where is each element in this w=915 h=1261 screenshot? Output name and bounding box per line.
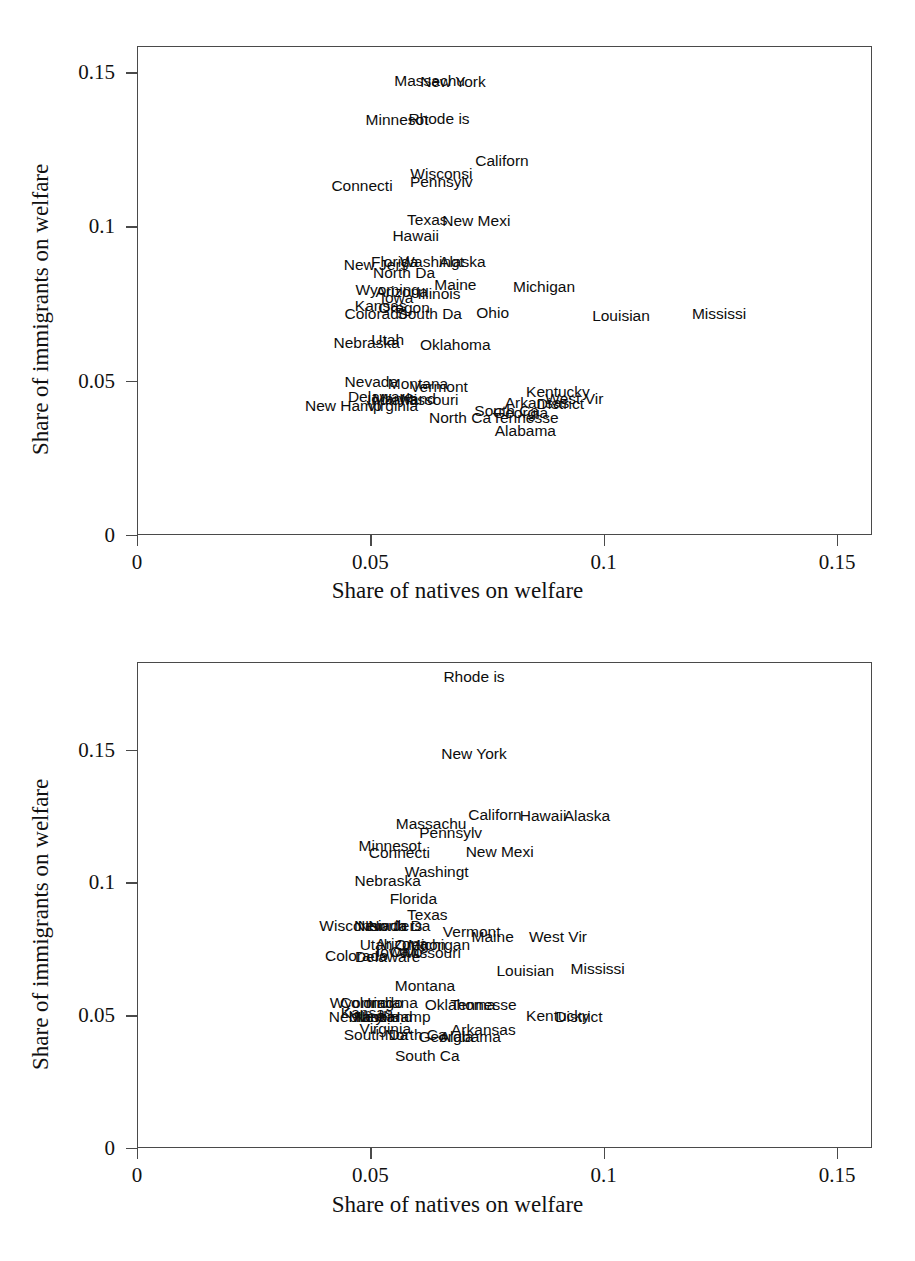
y-tick-label: 0.1 [89, 870, 115, 895]
x-tick-label: 0.15 [819, 1163, 856, 1188]
x-tick-label: 0 [132, 550, 143, 575]
data-point-label: South Ca [395, 1048, 460, 1064]
x-tick [137, 1148, 138, 1159]
y-tick-label: 0 [105, 523, 116, 548]
x-tick [837, 1148, 838, 1159]
x-tick [604, 1148, 605, 1159]
data-point-label: Montana [395, 978, 455, 994]
x-axis-title-bottom: Share of natives on welfare [0, 1192, 915, 1218]
y-tick [126, 381, 137, 382]
data-point-label: North Da [373, 265, 435, 281]
data-point-label: Oklahoma [420, 337, 491, 353]
y-tick-label: 0.15 [78, 737, 115, 762]
data-point-label: Californ [475, 153, 528, 169]
data-point-label: Delaware [355, 950, 420, 966]
data-point-label: New Mexi [466, 844, 534, 860]
data-point-label: Alabama [495, 423, 556, 439]
data-point-label: West Vir [529, 929, 587, 945]
data-point-label: New Mexi [442, 213, 510, 229]
data-point-label: Rhode is [443, 670, 504, 686]
plot-frame-top: MassachuNew YorkMinnesotRhode isCaliforn… [137, 46, 872, 535]
x-tick [137, 535, 138, 546]
x-tick-label: 0.1 [591, 550, 617, 575]
y-tick [126, 750, 137, 751]
data-point-label: Mississi [571, 962, 625, 978]
data-point-label: New Hamp [305, 399, 382, 415]
y-tick [126, 535, 137, 536]
x-tick [604, 535, 605, 546]
data-point-label: Californ [468, 807, 521, 823]
y-tick-label: 0 [105, 1136, 116, 1161]
data-point-label: Hawaii [520, 808, 567, 824]
x-tick [370, 1148, 371, 1159]
y-axis-title-top: Share of immigrants on welfare [28, 164, 54, 455]
data-point-label: South Da [397, 307, 462, 323]
x-tick-label: 0.15 [819, 550, 856, 575]
data-point-label: North Da [368, 919, 430, 935]
data-point-label: Pennsylv [419, 826, 482, 842]
y-tick-label: 0.05 [78, 368, 115, 393]
x-axis-title-top: Share of natives on welfare [0, 578, 915, 604]
data-point-label: Michigan [513, 280, 575, 296]
data-point-label: Louisian [496, 963, 554, 979]
data-point-label: Hawaii [392, 228, 439, 244]
x-tick-label: 0.05 [352, 550, 389, 575]
data-point-label: Florida [390, 892, 437, 908]
data-point-label: North Ca [429, 410, 491, 426]
scatter-figure-bottom: Rhode isNew YorkCalifornHawaiiAlaskaMass… [0, 620, 915, 1261]
y-tick-label: 0.05 [78, 1003, 115, 1028]
x-tick-label: 0.05 [352, 1163, 389, 1188]
y-tick [126, 72, 137, 73]
plot-area-top: MassachuNew YorkMinnesotRhode isCaliforn… [138, 47, 871, 534]
data-point-label: Tennesse [450, 997, 516, 1013]
data-point-label: Connecti [369, 845, 430, 861]
y-tick [126, 1015, 137, 1016]
data-point-label: Alabama [440, 1029, 501, 1045]
data-point-label: New York [441, 746, 506, 762]
plot-frame-bottom: Rhode isNew YorkCalifornHawaiiAlaskaMass… [137, 662, 872, 1148]
y-axis-title-bottom: Share of immigrants on welfare [28, 779, 54, 1070]
data-point-label: Alaska [439, 254, 486, 270]
y-tick [126, 226, 137, 227]
data-point-label: New York [420, 75, 485, 91]
data-point-label: Pennsylv [410, 174, 473, 190]
data-point-label: Connecti [331, 178, 392, 194]
x-tick [370, 535, 371, 546]
data-point-label: Rhode is [408, 111, 469, 127]
y-tick-label: 0.1 [89, 214, 115, 239]
data-point-label: Alaska [564, 808, 611, 824]
y-tick [126, 882, 137, 883]
x-tick [837, 535, 838, 546]
x-tick-label: 0 [132, 1163, 143, 1188]
data-point-label: Nebraska [354, 873, 420, 889]
data-point-label: Mississi [692, 307, 746, 323]
plot-area-bottom: Rhode isNew YorkCalifornHawaiiAlaskaMass… [138, 663, 871, 1147]
x-tick-label: 0.1 [591, 1163, 617, 1188]
data-point-label: Nebraska [333, 335, 399, 351]
data-point-label: Louisian [592, 308, 650, 324]
y-tick-label: 0.15 [78, 60, 115, 85]
data-point-label: Maine [472, 929, 514, 945]
scatter-figure-top: MassachuNew YorkMinnesotRhode isCaliforn… [0, 0, 915, 620]
y-tick [126, 1148, 137, 1149]
data-point-label: Ohio [476, 305, 509, 321]
data-point-label: District [555, 1009, 602, 1025]
